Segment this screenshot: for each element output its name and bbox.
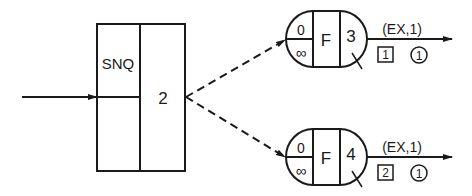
- diagram-canvas: SNQ 2 0 ∞ F 3 (EX,1) 1 1 0 ∞ F 4 (EX,1) …: [0, 0, 472, 196]
- output-label-bottom: (EX,1): [382, 139, 422, 155]
- node-middle-label: F: [321, 31, 331, 50]
- node-right-label: 3: [346, 27, 355, 46]
- node-right-label: 4: [346, 145, 355, 164]
- box-value-bottom: 2: [382, 166, 389, 180]
- output-label-top: (EX,1): [382, 21, 422, 37]
- circle-value-top: 1: [416, 49, 423, 63]
- node-bottom-value: ∞: [296, 162, 307, 179]
- dashed-arrow-bottom: [186, 97, 285, 157]
- node-bottom-value: ∞: [296, 44, 307, 61]
- node-bottom: 0 ∞ F 4: [286, 129, 367, 187]
- snq-block: SNQ 2: [97, 24, 185, 171]
- node-top: 0 ∞ F 3: [286, 11, 367, 69]
- box-value-top: 1: [382, 48, 389, 62]
- dashed-arrow-top: [186, 40, 285, 97]
- node-top-value: 0: [297, 140, 305, 156]
- node-middle-label: F: [321, 149, 331, 168]
- block-number: 2: [158, 89, 167, 108]
- node-top-value: 0: [297, 22, 305, 38]
- circle-value-bottom: 1: [416, 167, 423, 181]
- snq-label: SNQ: [102, 55, 135, 72]
